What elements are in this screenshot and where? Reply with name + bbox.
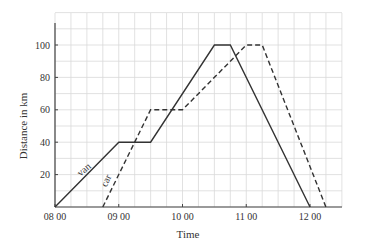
x-tick-label: 11 00 [235, 211, 257, 222]
series-label-van: van [75, 160, 93, 178]
y-tick-label: 40 [40, 137, 50, 148]
x-tick-label: 08 00 [44, 211, 67, 222]
grid [55, 13, 342, 207]
x-tick-label: 12 00 [299, 211, 322, 222]
x-axis-title: Time [177, 228, 200, 240]
y-tick-label: 20 [40, 169, 50, 180]
y-tick-label: 60 [40, 104, 50, 115]
distance-time-chart: 08 0009 0010 0011 0012 00 20406080100 Ti… [0, 0, 365, 246]
x-tick-label: 10 00 [171, 211, 194, 222]
x-tick-label: 09 00 [108, 211, 131, 222]
y-tick-label: 100 [35, 40, 50, 51]
y-axis-title: Distance in km [17, 92, 29, 159]
y-tick-label: 80 [40, 72, 50, 83]
